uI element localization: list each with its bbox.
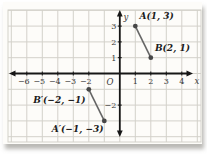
y-axis-down-arrow-icon: [117, 131, 123, 138]
y-axis-label: y: [123, 12, 129, 22]
coordinate-plane-chart: xyO−6−5−4−3−21234321−2A(1, 3)B(2, 1)B′(−…: [0, 0, 207, 154]
y-tick-label: −2: [105, 101, 117, 110]
point-label: B′(−2, −1): [32, 95, 85, 106]
point-label: B(2, 1): [154, 43, 190, 54]
x-tick-label: −2: [80, 77, 92, 86]
x-tick-label: 4: [179, 77, 184, 86]
y-axis-up-arrow-icon: [117, 10, 123, 17]
x-tick-label: 2: [148, 77, 153, 86]
axes: [9, 10, 193, 137]
y-tick-label: 3: [111, 22, 116, 31]
point-label: A′(−1, −3): [51, 124, 104, 135]
point-B-prime: [86, 87, 91, 92]
x-axis-left-arrow-icon: [9, 71, 16, 77]
y-tick-label: 1: [111, 54, 116, 63]
point-label: A(1, 3): [139, 11, 174, 22]
x-axis-right-arrow-icon: [187, 71, 194, 77]
x-tick-label: −3: [64, 77, 76, 86]
point-A: [133, 24, 138, 29]
x-tick-label: −4: [49, 77, 61, 86]
x-tick-label: 3: [164, 77, 169, 86]
y-tick-label: 2: [111, 38, 116, 47]
screenshot-root: xyO−6−5−4−3−21234321−2A(1, 3)B(2, 1)B′(−…: [0, 0, 207, 154]
x-axis-label: x: [195, 76, 200, 86]
x-tick-label: −6: [18, 77, 30, 86]
origin-label: O: [107, 77, 114, 87]
x-tick-label: 1: [133, 77, 138, 86]
x-tick-label: −5: [33, 77, 45, 86]
point-B: [148, 55, 153, 60]
point-A-prime: [102, 119, 107, 124]
